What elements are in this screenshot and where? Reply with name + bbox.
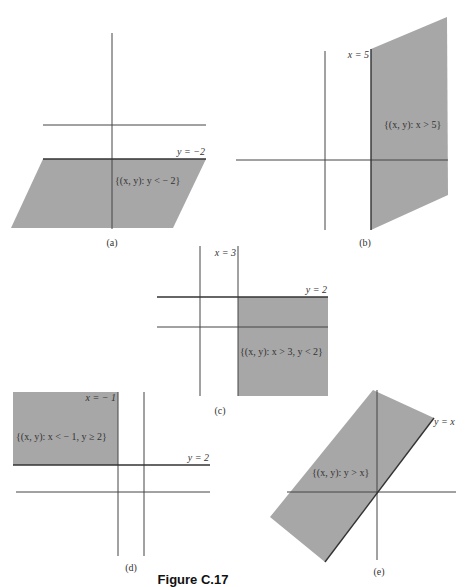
boundary-label-a: y = −2 — [176, 146, 205, 157]
panel-b: x = 5 {(x, y): x > 5} (b) — [236, 17, 448, 249]
caption-a: (a) — [106, 237, 117, 249]
boundary-x-label-c: x = 3 — [214, 247, 236, 258]
region-label-c: {(x, y): x > 3, y < 2} — [240, 346, 323, 358]
region-label-a: {(x, y): y < − 2} — [115, 175, 180, 187]
panel-e: y = x {(x, y): y > x} (e) — [270, 390, 456, 578]
panel-d: x = − 1 y = 2 {(x, y): x < − 1, y ≥ 2} (… — [13, 392, 210, 574]
boundary-x-label-d: x = − 1 — [85, 392, 116, 403]
panel-a: y = −2 {(x, y): y < − 2} (a) — [11, 33, 206, 249]
region-label-e: {(x, y): y > x} — [312, 467, 369, 479]
caption-d: (d) — [125, 562, 137, 574]
figure-title: Figure C.17 — [158, 572, 229, 587]
boundary-label-e: y = x — [433, 416, 455, 427]
region-label-d: {(x, y): x < − 1, y ≥ 2} — [16, 431, 107, 443]
boundary-y-label-c: y = 2 — [305, 284, 327, 295]
caption-b: (b) — [359, 237, 371, 249]
region-a-shade — [11, 159, 206, 228]
caption-e: (e) — [373, 566, 384, 578]
panel-c: x = 3 y = 2 {(x, y): x > 3, y < 2} (c) — [157, 246, 328, 417]
region-label-b: {(x, y): x > 5} — [384, 119, 441, 131]
boundary-label-b: x = 5 — [347, 49, 369, 60]
caption-c: (c) — [214, 405, 225, 417]
figure-canvas: y = −2 {(x, y): y < − 2} (a) x = 5 {(x, … — [0, 0, 466, 587]
boundary-y-label-d: y = 2 — [187, 452, 209, 463]
